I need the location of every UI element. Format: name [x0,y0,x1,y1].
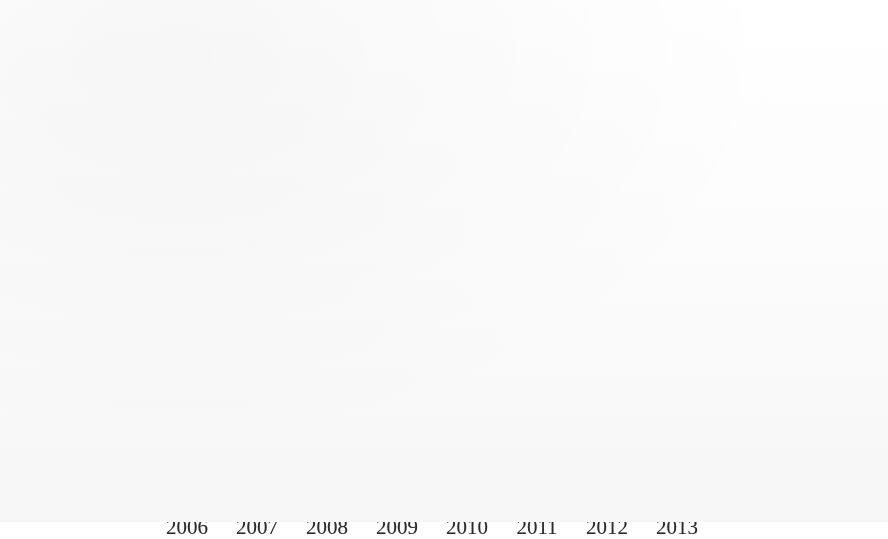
legend-item-no-programs[interactable]: No. programs [717,281,867,301]
bar-group-2011 [504,123,574,468]
x-axis-label-2009: 2009 [376,515,418,539]
bar-cap [166,243,181,249]
x-tick-mark-2010 [418,489,419,498]
plot-back-wall-top [154,109,714,110]
chart-title: Children's & Young Adult Programming [49,53,839,81]
bar-cap [656,160,671,166]
y-tick-label-25000: 25000 [88,111,141,136]
bar-group-2013 [644,123,714,468]
bar-cap [586,159,601,165]
bar-group-2010 [434,123,504,468]
x-axis-label-2013: 2013 [656,515,698,539]
legend-swatch-no-programs [717,285,729,297]
bar-attendance-2011 [516,131,531,468]
x-axis-label-2007: 2007 [236,515,278,539]
legend-label: Attendance [737,323,823,343]
bar-group-2012 [574,123,644,468]
bar-cap [236,217,251,223]
legend-item-attendance[interactable]: Attendance [717,323,867,343]
bar-attendance-2006 [166,246,181,468]
x-tick-mark-2011 [488,489,489,498]
y-tick-label-20000: 20000 [88,180,141,205]
bar-attendance-2008 [306,218,321,468]
x-axis-label-2008: 2008 [306,515,348,539]
legend-label: No. programs [737,281,840,301]
scan-artifact [852,64,866,67]
bar-cap [446,138,461,144]
x-axis-label-2006: 2006 [166,515,208,539]
y-tick-label-5000: 5000 [98,387,140,412]
bar-attendance-2007 [236,220,251,468]
x-tick-mark-2007 [208,489,209,498]
bar-cap [306,215,321,221]
x-axis-label-2012: 2012 [586,515,628,539]
x-tick-mark-2008 [278,489,279,498]
plot-floor [136,466,734,488]
y-tick-mark-20000 [141,192,153,193]
bar-group-2007 [224,123,294,468]
chart-frame: Children's & Young Adult Programming 050… [48,32,840,467]
x-axis-label-2010: 2010 [446,515,488,539]
plot-area: 0500010000150002000025000 20062007200820… [154,123,714,468]
bar-cap [516,128,531,134]
y-tick-mark-15000 [141,261,153,262]
x-tick-mark-2013 [628,489,629,498]
y-tick-mark-5000 [141,399,153,400]
y-tick-mark-0 [141,468,153,469]
y-tick-label-0: 0 [130,456,141,481]
bar-group-2009 [364,123,434,468]
y-tick-label-15000: 15000 [88,249,141,274]
bar-group-2008 [294,123,364,468]
bar-attendance-2012 [586,162,601,468]
x-tick-mark-2009 [348,489,349,498]
legend-swatch-attendance [717,327,729,339]
x-tick-mark-2012 [558,489,559,498]
y-tick-label-10000: 10000 [88,318,141,343]
x-axis-label-2011: 2011 [516,515,557,539]
bar-attendance-2010 [446,141,461,468]
bar-group-2006 [154,123,224,468]
bar-cap [376,190,391,196]
y-tick-mark-10000 [141,330,153,331]
x-tick-mark-end [698,489,699,498]
plot-floor-front-edge [136,488,716,489]
bar-attendance-2009 [376,193,391,468]
bar-attendance-2013 [656,163,671,468]
x-tick-mark-2006 [138,489,139,498]
chart-legend: No. programsAttendance [717,281,867,365]
y-tick-mark-25000 [141,123,153,124]
